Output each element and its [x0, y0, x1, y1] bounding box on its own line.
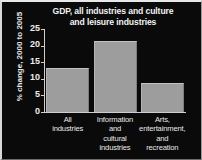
x-axis-category-label: Arts,entertainment,andrecreation [137, 115, 188, 153]
x-axis-category-line: industries [42, 124, 93, 133]
y-tick-label: 25 [30, 24, 40, 33]
x-axis-category-line: recreation [137, 143, 188, 152]
x-axis-category-line: Information [89, 115, 140, 124]
x-axis-category-line: industries [89, 143, 140, 152]
x-axis-category-line: All [42, 115, 93, 124]
x-axis-categories: AllindustriesInformationandculturalindus… [44, 115, 186, 160]
y-tick-mark [41, 29, 44, 30]
y-tick-label: 20 [30, 40, 40, 49]
chart-title-line-1: GDP, all industries and culture [28, 6, 198, 17]
x-axis-line [44, 112, 186, 113]
x-axis-category-label: Allindustries [42, 115, 93, 134]
x-axis-category-line: and [137, 134, 188, 143]
bar [141, 83, 184, 112]
x-axis-category-label: Informationandculturalindustries [89, 115, 140, 153]
bar [46, 68, 89, 112]
y-tick-mark [41, 46, 44, 47]
chart-title: GDP, all industries and culture and leis… [28, 6, 198, 27]
plot-area: 0510152025 [44, 29, 186, 112]
y-tick-label: 10 [30, 73, 40, 82]
y-tick-label: 0 [35, 107, 40, 116]
y-tick-mark [41, 79, 44, 80]
x-axis-category-line: cultural [89, 134, 140, 143]
x-axis-category-line: and [89, 124, 140, 133]
x-axis-category-line: Arts, [137, 115, 188, 124]
y-axis-line [44, 29, 45, 113]
y-tick-mark [41, 62, 44, 63]
x-axis-category-line: entertainment, [137, 124, 188, 133]
y-axis-label: % change, 2000 to 2005 [15, 9, 24, 105]
y-tick-mark [41, 112, 44, 113]
y-tick-mark [41, 95, 44, 96]
chart-figure: GDP, all industries and culture and leis… [0, 0, 202, 160]
y-tick-label: 5 [35, 90, 40, 99]
chart-title-line-2: and leisure industries [28, 17, 198, 28]
y-tick-label: 15 [30, 57, 40, 66]
bar [94, 41, 137, 112]
